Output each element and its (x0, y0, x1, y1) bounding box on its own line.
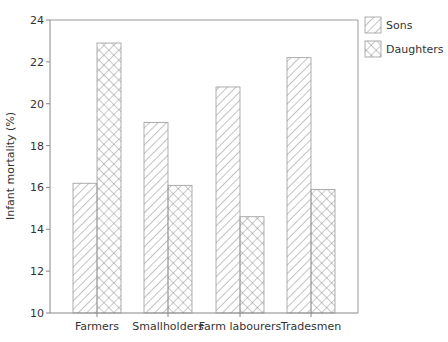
y-tick-label: 14 (30, 223, 44, 236)
y-tick-label: 22 (30, 56, 44, 69)
bar-daughters-farmers (97, 43, 121, 313)
y-axis-title: Infant mortality (%) (4, 112, 17, 220)
bar-daughters-tradesmen (311, 190, 335, 313)
legend-label-daughters: Daughters (386, 43, 444, 56)
legend-item-sons: Sons (365, 17, 413, 33)
legend: Sons Daughters (365, 17, 444, 57)
y-tick-label: 10 (30, 307, 44, 320)
y-tick-label: 12 (30, 265, 44, 278)
y-axis-ticks: 1012141618202224 (30, 14, 50, 320)
legend-item-daughters: Daughters (365, 41, 444, 57)
x-category-label: Tradesmen (280, 320, 341, 333)
bars (73, 43, 335, 313)
bar-sons-farmers (73, 183, 97, 313)
bar-daughters-smallholders (168, 185, 192, 313)
x-category-label: Smallholders (132, 320, 204, 333)
bar-sons-tradesmen (287, 58, 311, 313)
bar-sons-farm-labourers (216, 87, 240, 313)
y-tick-label: 20 (30, 98, 44, 111)
x-axis-labels: FarmersSmallholdersFarm labourersTradesm… (75, 313, 341, 333)
x-category-label: Farmers (75, 320, 119, 333)
bar-daughters-farm-labourers (240, 217, 264, 313)
x-category-label: Farm labourers (199, 320, 282, 333)
legend-label-sons: Sons (386, 19, 413, 32)
bar-sons-smallholders (144, 123, 168, 313)
y-tick-label: 16 (30, 181, 44, 194)
y-tick-label: 24 (30, 14, 44, 27)
cross-hatch-swatch-icon (365, 41, 381, 57)
diagonal-hatch-swatch-icon (365, 17, 381, 33)
bar-chart: 1012141618202224 FarmersSmallholdersFarm… (0, 0, 448, 342)
y-tick-label: 18 (30, 140, 44, 153)
